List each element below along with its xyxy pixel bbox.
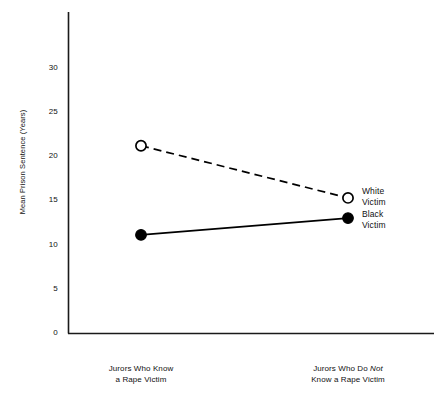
y-tick-label-0: 0 <box>32 329 58 337</box>
x-category-label-does-not-know-victim-line1: Jurors Who Do Not <box>278 363 418 374</box>
x-category-label-knows-victim-line1: Jurors Who Know <box>71 363 211 374</box>
series-label-white-victim-line1: White <box>362 186 386 197</box>
series-label-black-victim-line1: Black <box>362 209 386 220</box>
x-category-label-knows-victim-line2: a Rape Victim <box>71 374 211 385</box>
series-label-white-victim-line2: Victim <box>362 197 386 208</box>
x-category-label-does-not-know-victim-line2: Know a Rape Victim <box>278 374 418 385</box>
y-tick-label-5: 5 <box>32 285 58 293</box>
x-category-label-emphasis-not: Not <box>370 364 383 373</box>
y-tick-label-20: 20 <box>32 152 58 160</box>
y-tick-label-15: 15 <box>32 196 58 204</box>
series-line-white-victim <box>141 146 348 198</box>
y-tick-label-25: 25 <box>32 108 58 116</box>
series-label-black-victim: Black Victim <box>362 209 386 231</box>
chart-figure: 0 5 10 15 20 25 30 Mean Prison Sentence … <box>0 0 441 394</box>
data-point-white-victim-does-not-know <box>343 193 353 203</box>
data-point-black-victim-does-not-know <box>343 213 354 224</box>
x-category-label-does-not-know-victim-line1-pre: Jurors Who Do <box>313 364 370 373</box>
series-line-black-victim <box>141 218 348 235</box>
y-tick-label-10: 10 <box>32 241 58 249</box>
series-label-black-victim-line2: Victim <box>362 220 386 231</box>
y-axis-title: Mean Prison Sentence (Years) <box>19 92 27 232</box>
y-tick-label-30: 30 <box>32 64 58 72</box>
x-category-label-knows-victim: Jurors Who Know a Rape Victim <box>71 363 211 385</box>
x-category-label-does-not-know-victim: Jurors Who Do Not Know a Rape Victim <box>278 363 418 385</box>
series-label-white-victim: White Victim <box>362 186 386 208</box>
data-point-white-victim-knows <box>136 141 146 151</box>
data-point-black-victim-knows <box>136 230 147 241</box>
